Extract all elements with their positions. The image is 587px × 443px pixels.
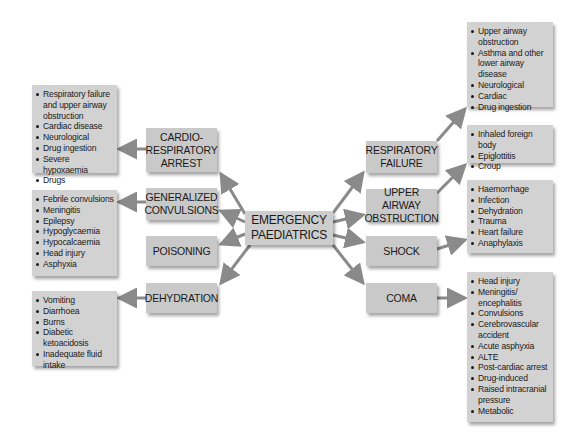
list-item: Infection	[471, 195, 550, 206]
list-item: Inhaled foreign body	[471, 129, 550, 151]
node-label: CARDIO-	[160, 131, 203, 144]
list-item: Vomiting	[36, 295, 114, 306]
list-item: Heart failure	[471, 227, 550, 238]
list-item: Haemorrhage	[471, 184, 550, 195]
list-coma-causes: Head injury Meningitis/ encephalitis Con…	[467, 272, 553, 422]
node-dehydration: DEHYDRATION	[146, 283, 217, 313]
center-label-line1: EMERGENCY	[251, 213, 327, 228]
node-coma: COMA	[366, 283, 437, 313]
list-item: Drug ingestion	[36, 143, 114, 154]
list-item: Acute asphyxia	[471, 341, 550, 352]
node-cardio-respiratory-arrest: CARDIO- RESPIRATORY ARREST	[146, 128, 217, 172]
list-item: Drugs	[36, 175, 114, 186]
list-item: Upper airway obstruction	[471, 26, 550, 48]
node-label: UPPER AIRWAY	[366, 186, 437, 212]
center-label-line2: PAEDIATRICS	[251, 228, 327, 243]
node-label: CONVULSIONS	[144, 204, 218, 217]
list-item: Meningitis	[36, 205, 114, 216]
list-item: Drug-induced	[471, 373, 550, 384]
list-item: Diabetic ketoacidosis	[36, 327, 114, 349]
list-item: Cerebrovascular accident	[471, 319, 550, 341]
list-item: Head injury	[471, 276, 550, 287]
node-label: GENERALIZED	[146, 191, 218, 204]
node-label: RESPIRATORY	[146, 144, 218, 157]
list-upper-airway-causes: Inhaled foreign body Epiglottitis Croup	[467, 125, 553, 163]
node-label: RESPIRATORY	[366, 144, 438, 157]
node-shock: SHOCK	[366, 236, 437, 266]
node-label: OBSTRUCTION	[364, 212, 438, 225]
list-respiratory-failure-causes: Upper airway obstruction Asthma and othe…	[467, 22, 553, 107]
list-item: Asphyxia	[36, 259, 114, 270]
list-item: Epiglottitis	[471, 151, 550, 162]
center-node-emergency-paediatrics: EMERGENCY PAEDIATRICS	[245, 211, 333, 245]
node-upper-airway-obstruction: UPPER AIRWAY OBSTRUCTION	[366, 189, 437, 221]
node-label: FAILURE	[380, 157, 422, 170]
node-label: DEHYDRATION	[145, 292, 218, 305]
list-item: Burns	[36, 317, 114, 328]
list-item: Respiratory failure and upper airway obs…	[36, 89, 114, 121]
list-item: Asthma and other lower airway disease	[471, 48, 550, 80]
list-item: Epilepsy	[36, 216, 114, 227]
list-item: Neurological	[36, 132, 114, 143]
node-generalized-convulsions: GENERALIZED CONVULSIONS	[146, 188, 217, 220]
list-item: Anaphylaxis	[471, 238, 550, 249]
list-item: Drug ingestion	[471, 102, 550, 113]
list-item: Diarrhoea	[36, 306, 114, 317]
list-item: Cardiac	[471, 91, 550, 102]
list-item: Cardiac disease	[36, 121, 114, 132]
list-item: Neurological	[471, 80, 550, 91]
list-item: Metabolic	[471, 406, 550, 417]
list-item: Trauma	[471, 216, 550, 227]
list-shock-causes: Haemorrhage Infection Dehydration Trauma…	[467, 180, 553, 253]
list-item: Convulsions	[471, 308, 550, 319]
node-label: COMA	[386, 292, 417, 305]
node-label: SHOCK	[383, 245, 419, 258]
node-poisoning: POISONING	[146, 236, 217, 266]
list-item: ALTE	[471, 352, 550, 363]
list-item: Inadequate fluid intake	[36, 349, 114, 371]
list-item: Dehydration	[471, 206, 550, 217]
list-item: Head injury	[36, 248, 114, 259]
list-item: Hypocalcaemia	[36, 237, 114, 248]
list-convulsions-causes: Febrile convulsions Meningitis Epilepsy …	[32, 190, 117, 276]
list-item: Meningitis/ encephalitis	[471, 287, 550, 309]
node-respiratory-failure: RESPIRATORY FAILURE	[366, 141, 437, 173]
list-item: Raised intracranial pressure	[471, 384, 550, 406]
node-label: ARREST	[161, 157, 202, 170]
list-item: Hypoglycaemia	[36, 226, 114, 237]
list-cardio-causes: Respiratory failure and upper airway obs…	[32, 85, 117, 173]
list-item: Post-cardiac arrest	[471, 362, 550, 373]
list-item: Severe hypoxaemia	[36, 154, 114, 176]
node-label: POISONING	[153, 245, 211, 258]
list-item: Croup	[471, 161, 550, 172]
list-dehydration-causes: Vomiting Diarrhoea Burns Diabetic ketoac…	[32, 291, 117, 366]
list-item: Febrile convulsions	[36, 194, 114, 205]
